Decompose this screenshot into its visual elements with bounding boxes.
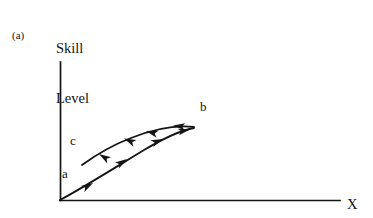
point-label-b: b bbox=[200, 99, 207, 114]
figure-panel: (a) Skill Level X a b c bbox=[0, 0, 373, 218]
x-axis-title: X bbox=[347, 196, 357, 213]
curve-b-to-c-group bbox=[82, 122, 194, 165]
point-label-a: a bbox=[62, 166, 68, 181]
y-axis-title-line-1: Skill bbox=[56, 40, 89, 57]
point-label-c: c bbox=[70, 133, 76, 148]
y-axis-title: Skill Level bbox=[56, 6, 89, 141]
axes-group bbox=[60, 62, 340, 201]
panel-label: (a) bbox=[12, 29, 24, 42]
y-axis-title-line-2: Level bbox=[56, 90, 89, 107]
